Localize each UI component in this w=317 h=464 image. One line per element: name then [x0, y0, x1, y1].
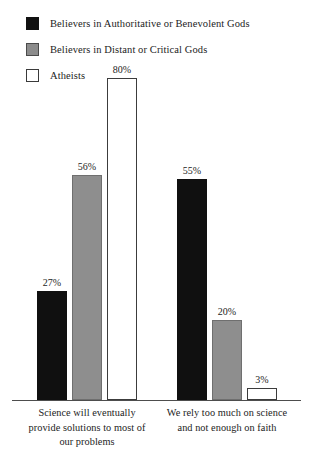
category-label-group2: We rely too much on science and not enou… [154, 406, 300, 435]
bar-value-label: 80% [101, 64, 143, 75]
bar-value-label: 55% [171, 165, 213, 176]
bar-value-label: 20% [206, 306, 248, 317]
plot-area: 27% 56% 80% 55% 20% 3% Science will even… [0, 0, 317, 464]
category-label-line: and not enough on faith [154, 421, 300, 436]
category-label-line: Science will eventually [19, 406, 155, 421]
bar-group1-atheists [107, 78, 137, 400]
category-label-line: We rely too much on science [154, 406, 300, 421]
bar-value-label: 3% [241, 374, 283, 385]
figure-root: Believers in Authoritative or Benevolent… [0, 0, 317, 464]
bar-group1-believers-authoritative [37, 291, 67, 400]
category-label-line: our problems [19, 435, 155, 450]
bar-value-label: 27% [31, 277, 73, 288]
bar-value-label: 56% [66, 161, 108, 172]
bar-group1-believers-distant [72, 175, 102, 400]
bar-group2-atheists [247, 388, 277, 400]
cropped-caption [0, 458, 317, 464]
x-axis-line [12, 400, 301, 401]
bar-group2-believers-distant [212, 320, 242, 401]
category-label-line: provide solutions to most of [19, 421, 155, 436]
category-label-group1: Science will eventually provide solution… [19, 406, 155, 450]
bar-group2-believers-authoritative [177, 179, 207, 400]
